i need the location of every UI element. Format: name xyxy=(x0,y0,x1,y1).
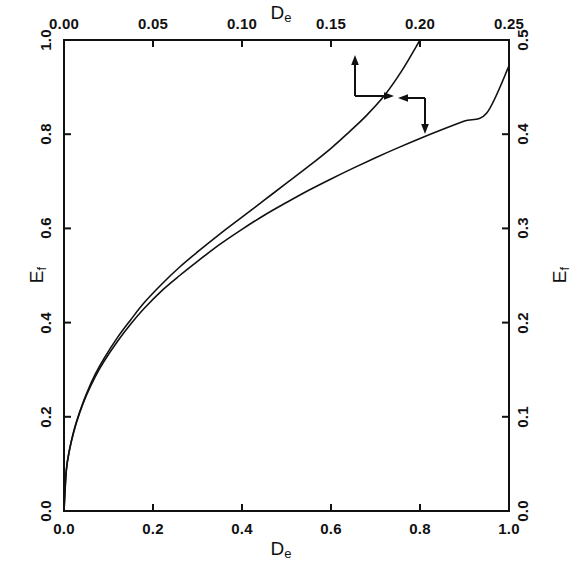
lower-curve-axis-pointer xyxy=(398,94,429,134)
right-tick-label: 0.3 xyxy=(514,218,531,239)
bottom-tick-label: 0.6 xyxy=(320,520,341,537)
arrow-down-head xyxy=(421,124,429,134)
upper-curve-axis-pointer xyxy=(351,55,394,100)
top-tick-label: 0.05 xyxy=(138,15,168,32)
bottom-tick-label: 0.0 xyxy=(53,520,74,537)
plot-frame xyxy=(64,40,509,511)
right-tick-label: 0.5 xyxy=(514,29,531,50)
right-tick-label: 0.1 xyxy=(514,406,531,427)
right-axis-title: Ef xyxy=(549,267,572,283)
series-line-upper-curve xyxy=(64,40,420,511)
top-axis-ticks xyxy=(64,40,509,47)
left-axis-title-sub: f xyxy=(34,267,49,271)
arrow-right-head xyxy=(384,92,394,100)
left-tick-label: 1.0 xyxy=(37,29,54,50)
top-tick-label: 0.15 xyxy=(316,15,346,32)
bottom-axis-title-sub: e xyxy=(284,546,291,561)
series-line-lower-curve xyxy=(64,66,509,511)
bottom-tick-label: 0.2 xyxy=(142,520,163,537)
right-tick-label: 0.2 xyxy=(514,312,531,333)
right-axis-ticks xyxy=(502,40,509,511)
left-tick-label: 0.6 xyxy=(37,218,54,239)
bottom-axis-title: De xyxy=(271,538,292,561)
left-axis-title: Ef xyxy=(26,267,49,283)
arrow-left-head xyxy=(398,94,408,102)
bottom-tick-label: 1.0 xyxy=(498,520,519,537)
right-axis-title-sub: f xyxy=(557,267,572,271)
arrow-up-head xyxy=(351,55,359,65)
bottom-axis-ticks xyxy=(64,504,509,511)
right-axis-title-text: E xyxy=(549,270,570,283)
top-axis-title: De xyxy=(271,2,292,25)
top-axis-title-sub: e xyxy=(284,10,291,25)
top-axis-title-text: D xyxy=(271,2,285,23)
top-tick-label: 0.20 xyxy=(405,15,435,32)
bottom-tick-label: 0.4 xyxy=(231,520,252,537)
right-tick-label: 0.0 xyxy=(514,500,531,521)
left-axis-ticks xyxy=(64,40,71,511)
bottom-axis-title-text: D xyxy=(271,538,285,559)
left-tick-label: 0.4 xyxy=(37,312,54,333)
left-tick-label: 0.0 xyxy=(37,500,54,521)
right-tick-label: 0.4 xyxy=(514,123,531,144)
left-tick-label: 0.8 xyxy=(37,123,54,144)
top-tick-label: 0.10 xyxy=(227,15,257,32)
bottom-tick-label: 0.8 xyxy=(409,520,430,537)
left-axis-title-text: E xyxy=(26,270,47,283)
left-tick-label: 0.2 xyxy=(37,406,54,427)
